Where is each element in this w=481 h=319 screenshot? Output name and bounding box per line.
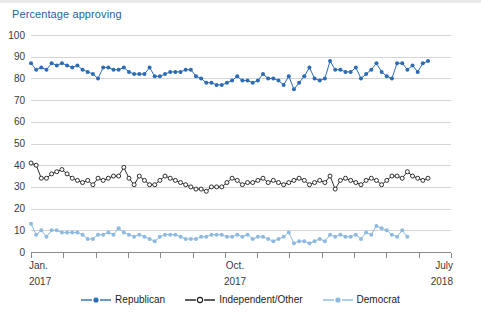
data-point bbox=[29, 222, 33, 226]
data-point bbox=[91, 237, 95, 241]
data-point bbox=[416, 70, 420, 74]
data-point bbox=[344, 235, 348, 239]
data-point bbox=[297, 176, 301, 180]
data-point bbox=[302, 74, 306, 78]
data-point bbox=[132, 235, 136, 239]
data-point bbox=[153, 239, 157, 243]
data-point bbox=[266, 181, 270, 185]
data-point bbox=[34, 163, 38, 167]
legend-marker-icon bbox=[323, 295, 353, 305]
data-point bbox=[184, 68, 188, 72]
legend-item[interactable]: Democrat bbox=[323, 294, 400, 305]
data-point bbox=[194, 74, 198, 78]
y-axis-tick-labels: 0102030405060708090100 bbox=[8, 30, 25, 258]
legend-item[interactable]: Independent/Other bbox=[185, 294, 302, 305]
data-point bbox=[426, 59, 430, 63]
data-point bbox=[70, 230, 74, 234]
data-point bbox=[256, 235, 260, 239]
data-point bbox=[220, 83, 224, 87]
data-point bbox=[411, 174, 415, 178]
data-point bbox=[158, 74, 162, 78]
data-point bbox=[271, 76, 275, 80]
data-point bbox=[230, 176, 234, 180]
legend-marker-icon bbox=[185, 295, 215, 305]
data-point bbox=[395, 61, 399, 65]
data-point bbox=[369, 233, 373, 237]
data-point bbox=[287, 74, 291, 78]
data-point bbox=[132, 183, 136, 187]
data-point bbox=[127, 176, 131, 180]
data-point bbox=[137, 72, 141, 76]
data-point bbox=[302, 178, 306, 182]
x-axis-tick-label-year: 2018 bbox=[431, 276, 454, 287]
data-point bbox=[261, 235, 265, 239]
y-axis-tick-label: 100 bbox=[8, 30, 25, 41]
data-point bbox=[65, 230, 69, 234]
data-point bbox=[292, 241, 296, 245]
data-point bbox=[81, 233, 85, 237]
y-axis-tick-label: 20 bbox=[14, 203, 26, 214]
data-point bbox=[287, 181, 291, 185]
data-point bbox=[168, 233, 172, 237]
data-point bbox=[34, 233, 38, 237]
data-point bbox=[246, 181, 250, 185]
data-point bbox=[111, 233, 115, 237]
data-point bbox=[122, 165, 126, 169]
data-point bbox=[168, 70, 172, 74]
data-point bbox=[333, 68, 337, 72]
bottom-spacer bbox=[0, 314, 481, 319]
data-point bbox=[184, 237, 188, 241]
data-point bbox=[349, 178, 353, 182]
data-point bbox=[292, 87, 296, 91]
data-point bbox=[313, 181, 317, 185]
data-point bbox=[338, 178, 342, 182]
data-point bbox=[34, 68, 38, 72]
data-point bbox=[235, 233, 239, 237]
data-point bbox=[44, 176, 48, 180]
data-point bbox=[225, 181, 229, 185]
data-point bbox=[106, 176, 110, 180]
data-point bbox=[50, 61, 54, 65]
data-point bbox=[137, 174, 141, 178]
data-point bbox=[390, 233, 394, 237]
data-point bbox=[395, 174, 399, 178]
legend-item[interactable]: Republican bbox=[81, 294, 165, 305]
data-point bbox=[349, 235, 353, 239]
data-point bbox=[235, 178, 239, 182]
y-axis-tick-label: 10 bbox=[14, 225, 26, 236]
data-point bbox=[199, 76, 203, 80]
data-point bbox=[251, 181, 255, 185]
legend-label: Independent/Other bbox=[219, 294, 302, 305]
data-point bbox=[421, 178, 425, 182]
data-point bbox=[29, 161, 33, 165]
data-point bbox=[344, 176, 348, 180]
y-axis-tick-label: 0 bbox=[19, 247, 25, 258]
data-point bbox=[292, 178, 296, 182]
data-point bbox=[60, 168, 64, 172]
data-point bbox=[209, 233, 213, 237]
data-point bbox=[173, 233, 177, 237]
data-point bbox=[81, 181, 85, 185]
data-point bbox=[276, 237, 280, 241]
data-point bbox=[307, 66, 311, 70]
data-point bbox=[240, 235, 244, 239]
data-point bbox=[416, 176, 420, 180]
data-point bbox=[199, 235, 203, 239]
data-point bbox=[179, 235, 183, 239]
data-point bbox=[282, 183, 286, 187]
data-point bbox=[318, 178, 322, 182]
data-point bbox=[266, 76, 270, 80]
data-point bbox=[122, 66, 126, 70]
y-axis-tick-label: 80 bbox=[14, 73, 26, 84]
data-point bbox=[411, 63, 415, 67]
data-point bbox=[111, 68, 115, 72]
data-point bbox=[354, 66, 358, 70]
data-point bbox=[328, 174, 332, 178]
data-point bbox=[142, 235, 146, 239]
x-axis bbox=[31, 253, 452, 258]
data-point bbox=[251, 237, 255, 241]
data-point bbox=[276, 79, 280, 83]
data-point bbox=[81, 68, 85, 72]
legend-marker-icon bbox=[81, 295, 111, 305]
data-point bbox=[400, 228, 404, 232]
